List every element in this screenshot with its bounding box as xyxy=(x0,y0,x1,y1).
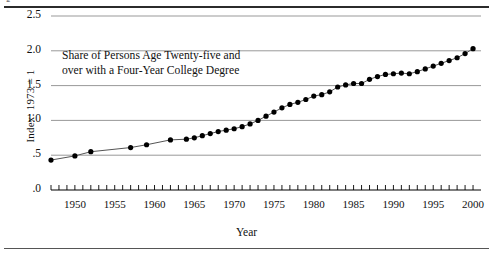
figure-container: g Index: 1973 = 1 Share of Persons Age T… xyxy=(0,0,493,267)
data-point xyxy=(447,58,452,63)
data-point xyxy=(351,81,356,86)
data-point xyxy=(455,55,460,60)
data-point xyxy=(263,114,268,119)
x-tick-label: 1995 xyxy=(413,198,453,210)
data-point xyxy=(327,89,332,94)
data-point xyxy=(192,135,197,140)
data-point xyxy=(144,142,149,147)
data-point xyxy=(168,137,173,142)
data-point xyxy=(439,61,444,66)
data-point xyxy=(303,97,308,102)
x-tick-label: 1980 xyxy=(294,198,334,210)
data-point xyxy=(399,70,404,75)
chart-annotation-line-1: Share of Persons Age Twenty-five and xyxy=(62,49,240,64)
data-point xyxy=(391,71,396,76)
x-tick-label: 1950 xyxy=(55,198,95,210)
data-point xyxy=(247,121,252,126)
x-tick-label: 1975 xyxy=(254,198,294,210)
y-tick-label: 1.0 xyxy=(7,112,41,124)
data-point xyxy=(470,46,475,51)
data-point xyxy=(128,145,133,150)
data-point xyxy=(287,102,292,107)
data-point xyxy=(271,109,276,114)
data-point xyxy=(208,131,213,136)
data-point xyxy=(343,82,348,87)
chart-annotation-line-2: over with a Four-Year College Degree xyxy=(62,64,240,79)
data-point xyxy=(359,81,364,86)
data-point xyxy=(423,66,428,71)
bottom-rule xyxy=(4,248,489,249)
x-tick-label: 1985 xyxy=(334,198,374,210)
y-tick-label: 2.5 xyxy=(7,8,41,20)
data-point xyxy=(295,100,300,105)
data-point xyxy=(72,153,77,158)
data-point xyxy=(462,51,467,56)
x-axis-title: Year xyxy=(0,226,493,238)
y-tick-label: 1.5 xyxy=(7,78,41,90)
data-point xyxy=(48,157,53,162)
data-point xyxy=(216,129,221,134)
data-point xyxy=(319,92,324,97)
data-point xyxy=(431,64,436,69)
data-point xyxy=(88,149,93,154)
data-point xyxy=(375,74,380,79)
data-point xyxy=(232,126,237,131)
y-tick-label: .0 xyxy=(7,182,41,194)
data-point xyxy=(415,69,420,74)
data-point xyxy=(279,105,284,110)
data-point xyxy=(367,77,372,82)
data-point xyxy=(383,72,388,77)
data-point xyxy=(255,118,260,123)
data-point xyxy=(240,124,245,129)
x-tick-label: 1955 xyxy=(95,198,135,210)
x-tick-label: 1960 xyxy=(135,198,175,210)
data-point xyxy=(184,137,189,142)
x-tick-label: 1990 xyxy=(373,198,413,210)
data-point xyxy=(335,84,340,89)
y-tick-label: .5 xyxy=(7,147,41,159)
data-point xyxy=(200,133,205,138)
x-tick-label: 1965 xyxy=(174,198,214,210)
x-tick-label: 2000 xyxy=(453,198,493,210)
data-point xyxy=(407,71,412,76)
chart-annotation: Share of Persons Age Twenty-five and ove… xyxy=(62,49,240,78)
x-tick-label: 1970 xyxy=(214,198,254,210)
y-tick-label: 2.0 xyxy=(7,43,41,55)
data-point xyxy=(224,128,229,133)
y-axis-title: Index: 1973 = 1 xyxy=(24,51,36,161)
data-point xyxy=(311,93,316,98)
